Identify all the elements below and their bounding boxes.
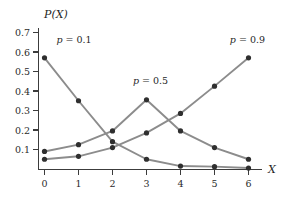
data-point-marker — [110, 139, 115, 144]
y-tick-label: 0.3 — [15, 105, 30, 116]
data-point-marker — [144, 157, 149, 162]
data-point-marker — [144, 97, 149, 102]
x-tick-label: 0 — [41, 178, 47, 189]
x-tick-label: 5 — [211, 178, 217, 189]
y-tick-label: 0.4 — [15, 86, 30, 97]
x-tick-label: 4 — [177, 178, 183, 189]
data-point-marker — [178, 163, 183, 168]
data-point-marker — [144, 130, 149, 135]
data-point-marker — [246, 165, 251, 170]
data-point-marker — [42, 157, 47, 162]
data-point-marker — [42, 55, 47, 60]
x-tick-label: 2 — [109, 178, 115, 189]
data-point-marker — [76, 98, 81, 103]
data-point-marker — [42, 149, 47, 154]
data-point-marker — [76, 154, 81, 159]
data-point-marker — [110, 128, 115, 133]
y-tick-label: 0.5 — [15, 66, 30, 77]
series-annotation-p05: p = 0.5 — [133, 75, 168, 86]
y-tick-label: 0.2 — [15, 125, 30, 136]
data-point-marker — [76, 142, 81, 147]
binomial-distribution-chart: 0.1 0.2 0.3 0.4 0.5 0.6 0.7 0 1 2 3 4 5 … — [0, 0, 289, 197]
series-annotation-p01: p = 0.1 — [56, 34, 91, 45]
data-point-marker — [212, 164, 217, 169]
data-point-marker — [110, 145, 115, 150]
series-annotation-p09: p = 0.9 — [230, 34, 265, 45]
data-point-marker — [246, 157, 251, 162]
y-axis-title: P(X) — [43, 8, 68, 21]
x-tick-label: 3 — [143, 178, 149, 189]
x-tick-label: 1 — [75, 178, 81, 189]
data-point-marker — [212, 145, 217, 150]
data-point-marker — [212, 84, 217, 89]
chart-canvas: 0.1 0.2 0.3 0.4 0.5 0.6 0.7 0 1 2 3 4 5 … — [0, 0, 289, 197]
data-point-marker — [246, 55, 251, 60]
y-tick-label: 0.6 — [15, 47, 30, 58]
x-tick-label: 6 — [245, 178, 251, 189]
y-tick-label: 0.7 — [15, 27, 30, 38]
data-point-marker — [178, 111, 183, 116]
y-tick-label: 0.1 — [15, 144, 30, 155]
x-axis-title: X — [267, 163, 277, 176]
data-point-marker — [178, 128, 183, 133]
